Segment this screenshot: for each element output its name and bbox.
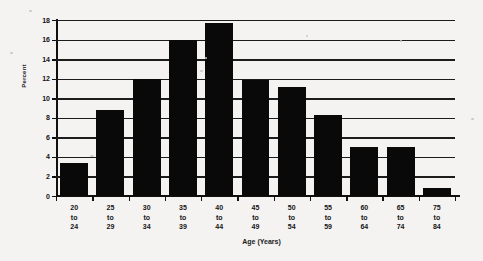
x-axis-category-line: 75 xyxy=(419,203,455,213)
scan-speck xyxy=(10,52,13,54)
scan-speck xyxy=(205,57,207,59)
bar xyxy=(314,115,342,196)
x-axis-category-line: to xyxy=(201,213,237,223)
x-axis-category-line: to xyxy=(92,213,128,223)
plot-area xyxy=(56,20,455,196)
x-axis-category-label: 40to44 xyxy=(201,203,237,232)
x-axis-category-line: to xyxy=(310,213,346,223)
x-axis-category-label: 20to24 xyxy=(56,203,92,232)
x-axis-category-line: 49 xyxy=(237,222,273,232)
x-axis-category-label: 45to49 xyxy=(237,203,273,232)
scan-speck xyxy=(400,40,402,42)
x-axis-category-line: 35 xyxy=(165,203,201,213)
x-axis-category-line: 44 xyxy=(201,222,237,232)
x-axis-category-line: 84 xyxy=(419,222,455,232)
x-axis-tick-mark xyxy=(419,196,420,201)
x-axis-tick-mark xyxy=(92,196,93,201)
y-axis-title: Percent xyxy=(21,46,27,106)
x-axis-category-line: 59 xyxy=(310,222,346,232)
x-axis-category-line: to xyxy=(382,213,418,223)
scan-speck xyxy=(29,10,32,12)
x-axis-category-line: 25 xyxy=(92,203,128,213)
x-axis-category-line: to xyxy=(237,213,273,223)
bar xyxy=(169,40,197,196)
x-axis-title-text: Age (Years) xyxy=(202,238,281,245)
x-axis-tick-mark xyxy=(237,196,238,201)
x-axis-tick-mark xyxy=(346,196,347,201)
x-axis-category-label: 60to64 xyxy=(346,203,382,232)
x-axis-category-line: 40 xyxy=(201,203,237,213)
x-axis-tick-mark xyxy=(56,196,57,201)
bar-chart: Percent 024681012141618 20to2425to2930to… xyxy=(0,0,483,261)
x-axis-category-line: 34 xyxy=(129,222,165,232)
bar xyxy=(387,147,415,196)
x-axis-category-line: to xyxy=(129,213,165,223)
x-axis-category-label: 25to29 xyxy=(92,203,128,232)
y-axis-tick-label: 14 xyxy=(30,56,50,63)
bar xyxy=(133,79,161,196)
x-axis-tick-mark xyxy=(455,196,456,201)
x-axis-category-line: 64 xyxy=(346,222,382,232)
x-axis-category-line: 39 xyxy=(165,222,201,232)
bar xyxy=(423,188,451,196)
x-axis-category-line: to xyxy=(165,213,201,223)
x-axis-tick-mark xyxy=(201,196,202,201)
x-axis-tick-mark xyxy=(382,196,383,201)
bar xyxy=(96,110,124,196)
x-axis-category-label: 30to34 xyxy=(129,203,165,232)
x-axis-tick-mark xyxy=(129,196,130,201)
gridline xyxy=(56,20,455,21)
scan-speck xyxy=(471,118,474,120)
y-axis-tick-label: 0 xyxy=(30,193,50,200)
x-axis-category-label: 65to74 xyxy=(382,203,418,232)
x-axis-category-line: to xyxy=(346,213,382,223)
x-axis-category-line: 74 xyxy=(382,222,418,232)
x-axis-category-line: to xyxy=(419,213,455,223)
scan-speck xyxy=(306,35,308,37)
bar xyxy=(350,147,378,196)
y-axis-tick-label: 12 xyxy=(30,75,50,82)
x-axis-category-line: 50 xyxy=(274,203,310,213)
y-axis-tick-label: 2 xyxy=(30,173,50,180)
x-axis-tick-mark xyxy=(165,196,166,201)
y-axis-tick-label: 10 xyxy=(30,95,50,102)
x-axis-category-label: 75to84 xyxy=(419,203,455,232)
bar xyxy=(278,87,306,197)
x-axis-tick-mark xyxy=(274,196,275,201)
bar xyxy=(242,80,270,196)
gridline xyxy=(56,40,455,41)
x-axis-category-line: 24 xyxy=(56,222,92,232)
scan-speck xyxy=(200,70,203,72)
x-axis-category-label: 35to39 xyxy=(165,203,201,232)
y-axis-tick-label: 16 xyxy=(30,36,50,43)
scan-speck xyxy=(90,155,94,157)
gridline xyxy=(56,59,455,60)
y-axis-tick-label: 8 xyxy=(30,114,50,121)
x-axis-category-label: 55to59 xyxy=(310,203,346,232)
x-axis-category-line: 29 xyxy=(92,222,128,232)
y-axis-tick-label: 4 xyxy=(30,153,50,160)
bar xyxy=(205,23,233,196)
x-axis-category-line: 20 xyxy=(56,203,92,213)
y-axis-tick-label: 18 xyxy=(30,17,50,24)
x-axis-category-line: 60 xyxy=(346,203,382,213)
x-axis-category-line: 55 xyxy=(310,203,346,213)
x-axis-category-line: 30 xyxy=(129,203,165,213)
x-axis-category-line: 45 xyxy=(237,203,273,213)
x-axis-category-label: 50to54 xyxy=(274,203,310,232)
x-axis-category-line: 65 xyxy=(382,203,418,213)
x-axis-category-line: to xyxy=(274,213,310,223)
bar xyxy=(60,163,88,196)
y-axis-tick-label: 6 xyxy=(30,134,50,141)
x-axis-title: Age (Years) xyxy=(0,238,483,245)
x-axis-tick-mark xyxy=(310,196,311,201)
x-axis-category-line: 54 xyxy=(274,222,310,232)
x-axis-category-line: to xyxy=(56,213,92,223)
